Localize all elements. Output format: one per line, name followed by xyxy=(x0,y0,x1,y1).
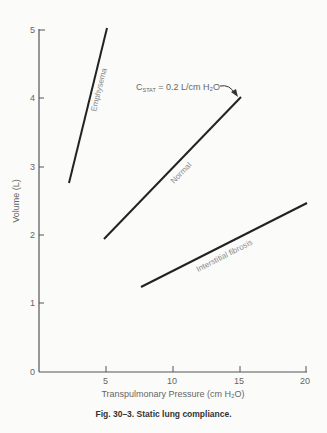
x-tick-label: 20 xyxy=(300,376,310,386)
chart-canvas: 5 4 3 2 1 0 5 10 15 20 Emphysema Normal … xyxy=(0,0,327,433)
y-ticks xyxy=(39,30,45,303)
y-tick-label: 1 xyxy=(30,298,35,308)
normal-label: Normal xyxy=(169,160,194,185)
x-ticks xyxy=(106,366,306,372)
x-tick-label: 5 xyxy=(103,376,108,386)
y-tick-label: 4 xyxy=(30,93,35,103)
x-tick-label: 10 xyxy=(167,376,177,386)
figure-caption: Fig. 30–3. Static lung compliance. xyxy=(0,409,327,419)
y-tick-label: 2 xyxy=(30,230,35,240)
normal-line xyxy=(104,97,241,239)
x-axis-label: Transpulmonary Pressure (cm H₂O) xyxy=(39,389,307,399)
y-tick-label: 0 xyxy=(30,367,35,377)
y-tick-label: 3 xyxy=(30,162,35,172)
x-tick-label: 15 xyxy=(234,376,244,386)
emphysema-line xyxy=(69,28,107,183)
y-tick-label: 5 xyxy=(30,25,35,35)
fibrosis-line xyxy=(141,203,307,287)
compliance-annotation: CSTAT = 0.2 L/cm H₂O xyxy=(136,82,220,93)
y-axis-label: Volume (L) xyxy=(11,171,21,231)
